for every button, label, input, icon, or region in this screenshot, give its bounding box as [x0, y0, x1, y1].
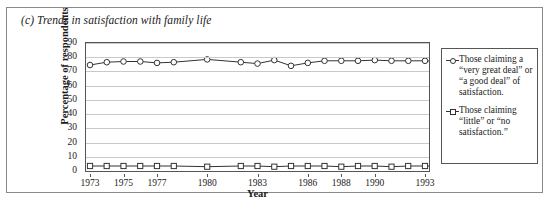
- data-point-marker: [272, 164, 277, 169]
- data-point-marker: [288, 63, 294, 69]
- x-tick-label: 1990: [365, 178, 384, 188]
- data-point-marker: [238, 59, 244, 65]
- data-point-marker: [138, 163, 143, 168]
- grid-line: [86, 57, 429, 58]
- x-tick-mark: [341, 174, 342, 177]
- y-tick-label: 50: [55, 95, 77, 104]
- legend-circle-marker-icon: [446, 55, 459, 66]
- data-point-marker: [406, 163, 411, 168]
- data-point-marker: [171, 163, 176, 168]
- x-tick-label: 1993: [416, 178, 435, 188]
- x-tick-mark: [90, 174, 91, 177]
- x-axis-tick-labels: 197319751977198019831986198819901993: [85, 174, 430, 187]
- data-point-marker: [255, 163, 260, 168]
- grid-line: [86, 128, 429, 129]
- legend-label: Those claiming a “very great deal” or “a…: [459, 54, 533, 98]
- legend-label: Those claiming “little” or “no satisfact…: [459, 105, 533, 138]
- x-tick-mark: [308, 174, 309, 177]
- data-point-marker: [104, 163, 109, 168]
- grid-line: [86, 157, 429, 158]
- x-tick-mark: [124, 174, 125, 177]
- data-point-marker: [288, 163, 293, 168]
- grid-line: [86, 143, 429, 144]
- data-point-marker: [87, 62, 93, 68]
- y-axis-tick-labels: 9080706050403020100: [53, 42, 77, 172]
- y-tick-label: 20: [55, 138, 77, 147]
- x-tick-label: 1973: [81, 178, 100, 188]
- data-point-marker: [138, 59, 144, 65]
- data-point-marker: [171, 59, 177, 65]
- x-tick-mark: [425, 174, 426, 177]
- data-point-marker: [339, 58, 345, 64]
- y-tick-label: 40: [55, 109, 77, 118]
- data-point-marker: [87, 163, 92, 168]
- plot-area: [85, 42, 430, 172]
- data-point-marker: [305, 163, 310, 168]
- y-tick-label: 0: [55, 166, 77, 175]
- data-point-marker: [322, 58, 328, 64]
- grid-line: [86, 71, 429, 72]
- grid-line: [86, 86, 429, 87]
- y-tick-label: 90: [55, 38, 77, 47]
- x-tick-mark: [207, 174, 208, 177]
- x-tick-mark: [157, 174, 158, 177]
- data-point-marker: [238, 163, 243, 168]
- x-tick-label: 1983: [248, 178, 267, 188]
- data-point-marker: [406, 58, 412, 64]
- data-point-marker: [255, 61, 261, 67]
- data-point-marker: [422, 58, 428, 64]
- x-tick-label: 1986: [298, 178, 317, 188]
- x-tick-mark: [375, 174, 376, 177]
- data-point-marker: [389, 164, 394, 169]
- data-point-marker: [205, 164, 210, 169]
- legend-square-marker-icon: [446, 106, 459, 117]
- data-point-marker: [104, 59, 110, 65]
- data-point-marker: [154, 163, 159, 168]
- data-point-marker: [389, 58, 395, 64]
- chart-legend: Those claiming a “very great deal” or “a…: [441, 48, 538, 164]
- data-point-marker: [339, 164, 344, 169]
- y-tick-label: 10: [55, 152, 77, 161]
- grid-line: [86, 114, 429, 115]
- figure-frame: (c) Trends in satisfaction with family l…: [6, 7, 543, 193]
- data-point-marker: [121, 59, 127, 65]
- x-tick-mark: [258, 174, 259, 177]
- grid-line: [86, 100, 429, 101]
- chart-title: (c) Trends in satisfaction with family l…: [21, 14, 211, 26]
- x-tick-label: 1980: [198, 178, 217, 188]
- y-tick-label: 60: [55, 81, 77, 90]
- data-point-marker: [154, 60, 160, 66]
- x-tick-label: 1977: [148, 178, 167, 188]
- y-tick-label: 30: [55, 123, 77, 132]
- plot-svg: [86, 43, 429, 171]
- x-axis-title: Year: [85, 188, 430, 199]
- legend-item-2: Those claiming “little” or “no satisfact…: [446, 105, 533, 138]
- legend-item-1: Those claiming a “very great deal” or “a…: [446, 54, 533, 98]
- data-point-marker: [372, 163, 377, 168]
- data-point-marker: [355, 163, 360, 168]
- y-tick-label: 70: [55, 66, 77, 75]
- data-point-marker: [305, 60, 311, 66]
- data-point-marker: [355, 58, 361, 64]
- x-tick-label: 1988: [332, 178, 351, 188]
- x-tick-label: 1975: [114, 178, 133, 188]
- data-point-marker: [121, 163, 126, 168]
- y-tick-label: 80: [55, 52, 77, 61]
- data-point-marker: [322, 163, 327, 168]
- grid-line: [86, 43, 429, 44]
- data-point-marker: [422, 163, 427, 168]
